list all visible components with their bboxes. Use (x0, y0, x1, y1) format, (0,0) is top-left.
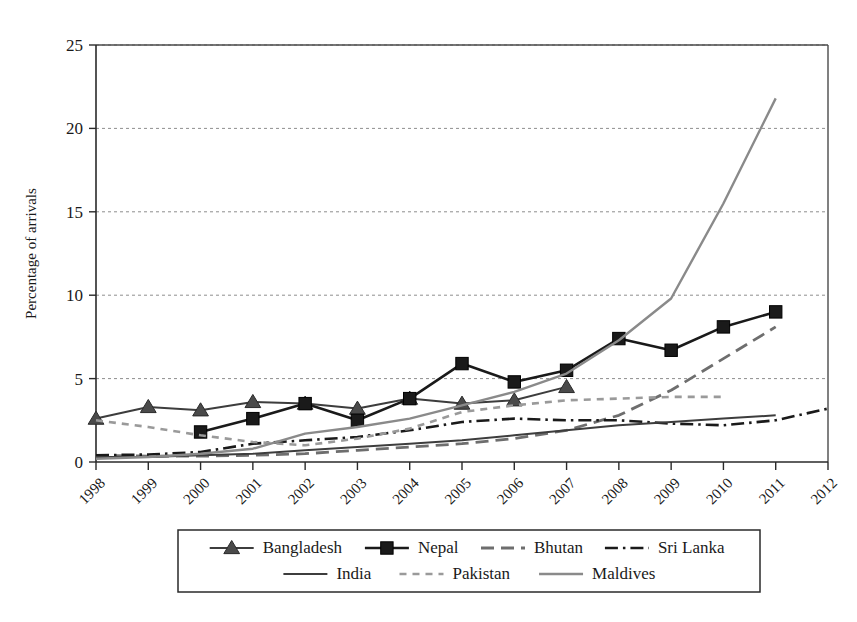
y-axis-ticks: 0510152025 (66, 36, 96, 472)
marker-triangle (140, 399, 156, 412)
marker-triangle (245, 394, 261, 407)
y-tick-label: 5 (75, 370, 84, 389)
marker-square (770, 306, 782, 318)
marker-square (456, 357, 468, 369)
series-maldives (96, 98, 776, 458)
legend-label: Nepal (418, 538, 459, 557)
x-tick-label: 2010 (703, 475, 736, 508)
marker-square (247, 412, 259, 424)
x-tick-label: 2008 (598, 475, 631, 508)
x-tick-label: 2009 (651, 475, 684, 508)
x-tick-label: 2002 (285, 475, 318, 508)
marker-square (665, 344, 677, 356)
x-tick-label: 2012 (808, 475, 841, 508)
x-tick-label: 2006 (494, 474, 527, 507)
percentage-of-arrivals-line-chart: 0510152025Percentage of arrivals19981999… (0, 0, 857, 622)
y-tick-label: 0 (75, 453, 84, 472)
x-tick-label: 2004 (389, 474, 422, 507)
x-tick-label: 2000 (180, 475, 213, 508)
x-axis-ticks: 1998199920002001200220032004200520062007… (76, 462, 841, 507)
marker-square (508, 376, 520, 388)
series-path (201, 312, 776, 432)
series-group (88, 98, 828, 458)
x-tick-label: 2001 (232, 475, 265, 508)
x-tick-label: 1999 (128, 475, 161, 508)
marker-square (351, 414, 363, 426)
legend-label: Sri Lanka (658, 538, 725, 557)
marker-square (717, 321, 729, 333)
series-bangladesh (88, 379, 574, 424)
legend-label: Bhutan (534, 538, 584, 557)
chart-figure: 0510152025Percentage of arrivals19981999… (0, 0, 857, 622)
x-tick-label: 2003 (337, 475, 370, 508)
legend-label: Maldives (592, 564, 655, 583)
legend-item-nepal[interactable]: Nepal (365, 538, 459, 557)
legend-item-india[interactable]: India (283, 564, 371, 583)
y-axis-title-text: Percentage of arrivals (23, 188, 39, 319)
x-tick-label: 2007 (546, 474, 579, 507)
x-tick-label: 1998 (76, 475, 109, 508)
y-tick-label: 10 (66, 286, 83, 305)
series-path (96, 387, 567, 419)
marker-triangle (559, 379, 575, 392)
legend-label: India (336, 564, 371, 583)
legend: BangladeshNepalBhutanSri LankaIndiaPakis… (178, 530, 760, 592)
marker-square (299, 397, 311, 409)
y-tick-label: 20 (66, 119, 83, 138)
x-tick-label: 2011 (756, 475, 788, 507)
y-axis-title: Percentage of arrivals (23, 188, 39, 319)
series-path (96, 98, 776, 458)
marker-square (404, 392, 416, 404)
y-tick-label: 25 (66, 36, 83, 55)
x-tick-label: 2005 (442, 475, 475, 508)
legend-label: Bangladesh (263, 538, 343, 557)
legend-item-bhutan[interactable]: Bhutan (481, 538, 584, 557)
legend-label: Pakistan (452, 564, 510, 583)
legend-marker-square (381, 542, 393, 554)
legend-item-pakistan[interactable]: Pakistan (399, 564, 510, 583)
legend-item-bangladesh[interactable]: Bangladesh (210, 538, 343, 557)
legend-item-maldives[interactable]: Maldives (539, 564, 655, 583)
y-tick-label: 15 (66, 203, 83, 222)
legend-item-sri-lanka[interactable]: Sri Lanka (605, 538, 725, 557)
series-nepal (194, 306, 782, 438)
